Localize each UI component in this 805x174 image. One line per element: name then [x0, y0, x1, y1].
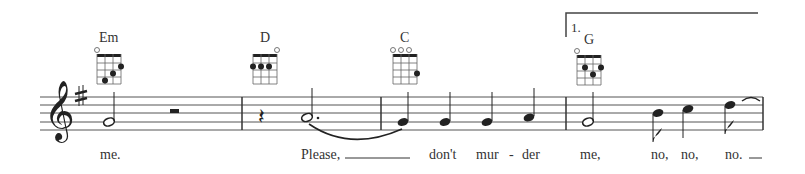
lyric-word: no, — [651, 147, 669, 163]
lyric-word: no, — [681, 147, 699, 163]
lyric-word: mur — [476, 147, 499, 163]
volta-bracket — [566, 13, 758, 37]
note-d5-eighth — [724, 100, 737, 134]
chord-diagram-em — [95, 48, 125, 85]
lyric-word: no. — [725, 147, 743, 163]
chord-name-em: Em — [99, 30, 118, 46]
tie-slur — [309, 124, 402, 139]
treble-clef-icon: 𝄞 — [44, 80, 75, 143]
lyric-word: Please, — [301, 147, 340, 163]
chord-name-c: C — [400, 30, 409, 46]
chord-diagram-d — [250, 48, 280, 85]
lyric-word: me, — [580, 147, 601, 163]
note-b4-eighth — [652, 108, 665, 142]
volta-label: 1. — [571, 20, 581, 36]
sharp-icon — [75, 85, 87, 106]
lyric-word: der — [522, 147, 540, 163]
lyric-word: me. — [100, 147, 121, 163]
half-rest-icon — [170, 109, 179, 113]
chord-name-g: G — [584, 32, 594, 48]
tie-arc — [742, 98, 760, 102]
chord-name-d: D — [260, 30, 270, 46]
quarter-rest-icon: 𝄽 — [258, 104, 265, 129]
chord-diagram-c — [391, 48, 421, 85]
note-c5-quarter — [682, 104, 695, 138]
lyric-word: don't — [429, 147, 456, 163]
svg-text:𝄽: 𝄽 — [258, 104, 265, 129]
chord-diagram-g — [575, 49, 605, 86]
svg-text:𝄞: 𝄞 — [44, 80, 75, 143]
lyric-hyphen: - — [509, 147, 514, 163]
